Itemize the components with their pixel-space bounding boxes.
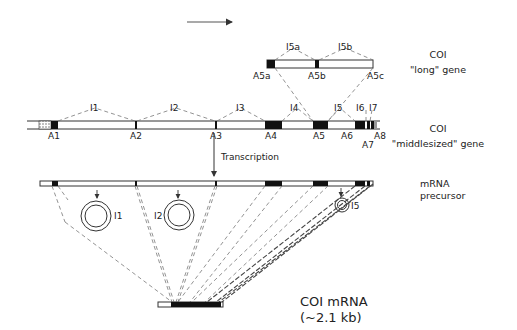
exon-label-a4: A4 (265, 131, 277, 141)
exon-label-a5c: A5c (367, 71, 384, 81)
middle-gene-subtitle: "middlesized" gene (392, 138, 485, 149)
intron-label-i6: I6 (356, 103, 365, 113)
exon-a7 (367, 121, 370, 129)
intron-label-i3: I3 (236, 103, 244, 113)
mature-mrna-label-line1: COI mRNA (300, 294, 368, 309)
precursor-label-line2: precursor (420, 190, 465, 201)
intron-label-i4: I4 (290, 103, 299, 113)
intron-label-i2: I2 (170, 103, 178, 113)
exon-label-a8: A8 (374, 131, 386, 141)
intron-label-i1: I1 (90, 103, 98, 113)
intron-label-i5: I5 (334, 103, 342, 113)
mature-mrna (158, 302, 223, 307)
lariat-label-i1: I1 (114, 211, 122, 221)
exon-label-a5b: A5b (308, 71, 326, 81)
long-gene-subtitle: "long" gene (410, 64, 466, 75)
exon-label-a5: A5 (313, 131, 325, 141)
exon-a2 (135, 121, 137, 129)
exon-a1 (51, 121, 58, 129)
exon-label-a3: A3 (210, 131, 222, 141)
exon-label-a2: A2 (130, 131, 142, 141)
middle-gene-title: COI (430, 123, 447, 134)
exon-a5a (267, 60, 275, 68)
exon-label-a5a: A5a (253, 71, 270, 81)
exon-label-a7: A7 (362, 140, 374, 150)
transcription-label: Transcription (220, 152, 279, 162)
exon-label-a6: A6 (341, 131, 353, 141)
lariat-label-i5: I5 (351, 201, 359, 211)
intron-label-i5b: I5b (338, 42, 352, 52)
exon-a5b (315, 60, 319, 68)
mature-mrna-label-line2: (~2.1 kb) (300, 310, 362, 325)
exon-a3 (215, 121, 217, 129)
exon-a8 (371, 121, 374, 129)
intron-label-i5a: I5a (286, 42, 300, 52)
lariat-label-i2: I2 (154, 211, 162, 221)
exon-a5 (313, 121, 328, 129)
mrna-precursor (40, 181, 373, 198)
precursor-label-line1: mRNA (420, 178, 450, 189)
exon-a6 (355, 121, 365, 129)
intron-label-i7: I7 (369, 103, 377, 113)
coi-splicing-diagram: I5a I5b A5a A5b A5c COI "long" gene I1 I… (0, 0, 517, 330)
exon-label-a1: A1 (48, 131, 60, 141)
excised-intron-i1: I1 (81, 201, 122, 231)
middlesized-gene: I1 I2 I3 I4 I5 I6 I7 A1 A2 A3 A4 A5 A6 A… (27, 103, 386, 150)
exon-a4 (265, 121, 282, 129)
long-gene-title: COI (430, 49, 447, 60)
excised-intron-i2: I2 (154, 200, 194, 230)
